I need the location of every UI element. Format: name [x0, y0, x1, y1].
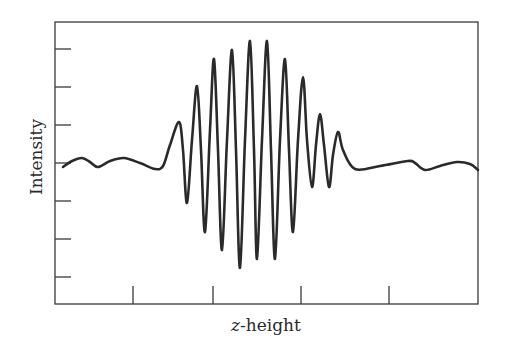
intensity-curve	[63, 41, 478, 268]
x-axis-label-rest: -height	[240, 315, 301, 335]
x-axis-ticks	[133, 286, 389, 304]
interferogram-chart: Intensity z-height	[0, 0, 505, 349]
y-axis-label: Intensity	[26, 119, 46, 195]
x-axis-label: z-height	[230, 315, 301, 335]
